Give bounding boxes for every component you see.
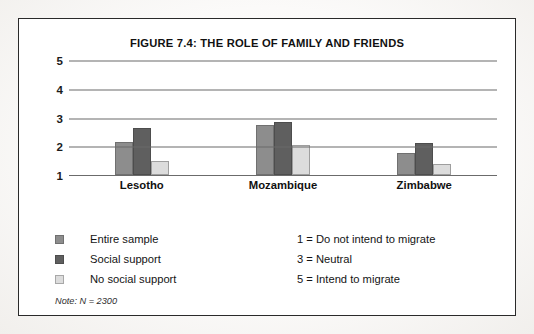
figure-frame: FIGURE 7.4: THE ROLE OF FAMILY AND FRIEN… (18, 18, 516, 316)
y-tick-2: 2 (57, 141, 63, 153)
x-axis-tick-labels: LesothoMozambiqueZimbabwe (69, 179, 497, 197)
x-tick-mozambique: Mozambique (249, 179, 317, 191)
gridline-4 (69, 89, 497, 90)
bar-mozambique-series-1 (274, 122, 292, 175)
figure-note: Note: N = 2300 (55, 296, 117, 306)
legend-item-1: Social support (55, 249, 285, 269)
legend-item-label: Entire sample (90, 233, 158, 245)
x-tick-lesotho: Lesotho (120, 179, 164, 191)
scale-legend-item-2: 5 = Intend to migrate (297, 269, 517, 289)
y-tick-1: 1 (57, 170, 63, 182)
legend-item-0: Entire sample (55, 229, 285, 249)
y-axis-tick-labels: 12345 (39, 61, 65, 176)
scale-legend-item-1: 3 = Neutral (297, 249, 517, 269)
x-axis-line (69, 175, 497, 176)
gridline-2 (69, 147, 497, 148)
gridline-5 (69, 61, 497, 62)
gridline-3 (69, 118, 497, 119)
y-tick-5: 5 (57, 55, 63, 67)
bar-mozambique-series-2 (292, 145, 310, 175)
bar-zimbabwe-series-0 (397, 153, 415, 175)
bar-zimbabwe-series-1 (415, 143, 433, 175)
legend-item-label: Social support (90, 253, 161, 265)
legend-swatch-icon-0 (55, 235, 64, 244)
bar-mozambique-series-0 (256, 125, 274, 175)
chart-axes (69, 61, 497, 176)
y-tick-3: 3 (57, 113, 63, 125)
legend-swatch-icon-2 (55, 275, 64, 284)
scale-legend: 1 = Do not intend to migrate3 = Neutral5… (297, 229, 517, 289)
x-tick-zimbabwe: Zimbabwe (397, 179, 452, 191)
bar-lesotho-series-1 (133, 128, 151, 175)
page-title: FIGURE 7.4: THE ROLE OF FAMILY AND FRIEN… (19, 37, 515, 49)
chart-plot-area: 12345 LesothoMozambiqueZimbabwe (39, 61, 497, 201)
scale-legend-item-0: 1 = Do not intend to migrate (297, 229, 517, 249)
legend-item-2: No social support (55, 269, 285, 289)
legend-swatch-icon-1 (55, 255, 64, 264)
bar-zimbabwe-series-2 (433, 164, 451, 176)
bar-lesotho-series-2 (151, 161, 169, 175)
series-legend: Entire sampleSocial supportNo social sup… (55, 229, 285, 289)
legend-item-label: No social support (90, 273, 176, 285)
y-tick-4: 4 (57, 84, 63, 96)
